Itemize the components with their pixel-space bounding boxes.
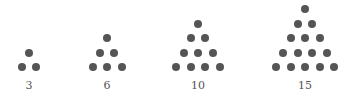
dot bbox=[301, 63, 309, 71]
dot bbox=[301, 5, 309, 13]
dot bbox=[201, 34, 209, 42]
dot bbox=[323, 49, 331, 57]
dot bbox=[279, 49, 287, 57]
dot bbox=[301, 34, 309, 42]
label-6: 6 bbox=[87, 79, 127, 92]
dot bbox=[32, 63, 40, 71]
dot bbox=[110, 49, 118, 57]
dot bbox=[216, 63, 224, 71]
dot bbox=[194, 49, 202, 57]
dot bbox=[118, 63, 126, 71]
dot bbox=[287, 63, 295, 71]
dot bbox=[308, 20, 316, 28]
dot bbox=[308, 49, 316, 57]
dot bbox=[330, 63, 338, 71]
label-15: 15 bbox=[285, 79, 325, 92]
dot bbox=[103, 34, 111, 42]
dot bbox=[187, 34, 195, 42]
dot bbox=[316, 34, 324, 42]
dot bbox=[96, 49, 104, 57]
dot bbox=[18, 63, 26, 71]
dot bbox=[89, 63, 97, 71]
dot bbox=[316, 63, 324, 71]
dot bbox=[287, 34, 295, 42]
dot bbox=[201, 63, 209, 71]
dot bbox=[294, 20, 302, 28]
label-10: 10 bbox=[178, 79, 218, 92]
dot bbox=[209, 49, 217, 57]
dot bbox=[294, 49, 302, 57]
dot bbox=[103, 63, 111, 71]
dot bbox=[194, 20, 202, 28]
dot bbox=[180, 49, 188, 57]
dot bbox=[187, 63, 195, 71]
dot bbox=[172, 63, 180, 71]
dot bbox=[272, 63, 280, 71]
label-3: 3 bbox=[9, 79, 49, 92]
dot bbox=[25, 49, 33, 57]
